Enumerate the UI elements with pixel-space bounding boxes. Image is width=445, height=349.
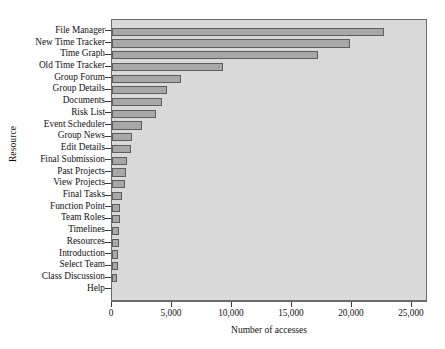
y-tick-mark [105,195,111,196]
x-tick-mark [291,302,292,307]
y-tick-label: Event Scheduler [0,119,105,131]
bar [112,180,125,188]
bar [112,121,142,129]
bar-row [112,249,426,261]
y-tick-label: Team Roles [0,212,105,224]
bar-row [112,261,426,273]
y-tick-mark [105,77,111,78]
bar-row [112,167,426,179]
bar-row [112,178,426,190]
y-tick-label: Past Projects [0,166,105,178]
bar-row [112,26,426,38]
y-tick-mark [105,230,111,231]
bar-row [112,61,426,73]
y-tick-mark [105,218,111,219]
bar [112,75,181,83]
x-tick-mark [351,302,352,307]
y-tick-label: Old Time Tracker [0,60,105,72]
y-tick-label: New Time Tracker [0,37,105,49]
bar [112,98,162,106]
bar-row [112,143,426,155]
y-tick-label: View Projects [0,177,105,189]
y-tick-label: Final Submission [0,154,105,166]
x-tick-label: 15,000 [261,308,321,318]
y-tick-label: Time Graph [0,48,105,60]
bar-row [112,190,426,202]
bar-row [112,96,426,108]
y-tick-mark [105,112,111,113]
bar [112,86,167,94]
y-tick-label: Help [0,283,105,295]
y-tick-label: File Manager [0,25,105,37]
bar-row [112,225,426,237]
bar [112,145,131,153]
y-tick-label: Final Tasks [0,189,105,201]
bar-row [112,108,426,120]
y-tick-mark [105,265,111,266]
y-tick-label: Select Team [0,259,105,271]
y-tick-mark [105,277,111,278]
x-tick-label: 5,000 [141,308,201,318]
x-tick-mark [111,302,112,307]
y-tick-mark [105,136,111,137]
bar [112,274,117,282]
x-tick-mark [231,302,232,307]
bar [112,63,223,71]
y-tick-mark [105,171,111,172]
y-tick-label: Documents [0,95,105,107]
y-tick-label: Timelines [0,224,105,236]
bar-row [112,272,426,284]
y-tick-mark [105,54,111,55]
bar [112,239,119,247]
bar-row [112,85,426,97]
y-tick-label: Function Point [0,201,105,213]
bar [112,28,384,36]
y-tick-label: Risk List [0,107,105,119]
bar-row [112,49,426,61]
y-tick-mark [105,124,111,125]
bar-row [112,38,426,50]
bar-chart: Resource File ManagerNew Time TrackerTim… [0,0,445,349]
y-tick-mark [105,183,111,184]
y-tick-mark [105,101,111,102]
bar [112,110,156,118]
y-tick-label: Resources [0,236,105,248]
bar-row [112,284,426,296]
y-tick-mark [105,159,111,160]
bar [112,133,132,141]
bar [112,250,118,258]
bar-row [112,202,426,214]
x-axis-line [111,301,427,302]
bar [112,215,120,223]
bar [112,51,318,59]
bar [112,168,126,176]
bar [112,227,119,235]
bar-row [112,132,426,144]
bar-row [112,73,426,85]
x-tick-label: 0 [81,308,141,318]
x-tick-label: 20,000 [321,308,381,318]
y-tick-mark [105,148,111,149]
y-tick-mark [105,66,111,67]
x-axis-title: Number of accesses [111,325,427,335]
bar-row [112,214,426,226]
bar [112,192,122,200]
y-tick-mark [105,253,111,254]
y-tick-label: Edit Details [0,142,105,154]
bar [112,262,118,270]
bar [112,204,120,212]
bar-row [112,155,426,167]
x-tick-label: 25,000 [381,308,441,318]
y-tick-label: Introduction [0,248,105,260]
y-tick-mark [105,42,111,43]
y-tick-mark [105,288,111,289]
bar [112,157,127,165]
y-tick-label: Class Discussion [0,271,105,283]
y-tick-label: Group News [0,130,105,142]
x-tick-mark [411,302,412,307]
bar-row [112,120,426,132]
bar-row [112,237,426,249]
y-tick-mark [105,206,111,207]
y-tick-mark [105,30,111,31]
y-tick-mark [105,89,111,90]
